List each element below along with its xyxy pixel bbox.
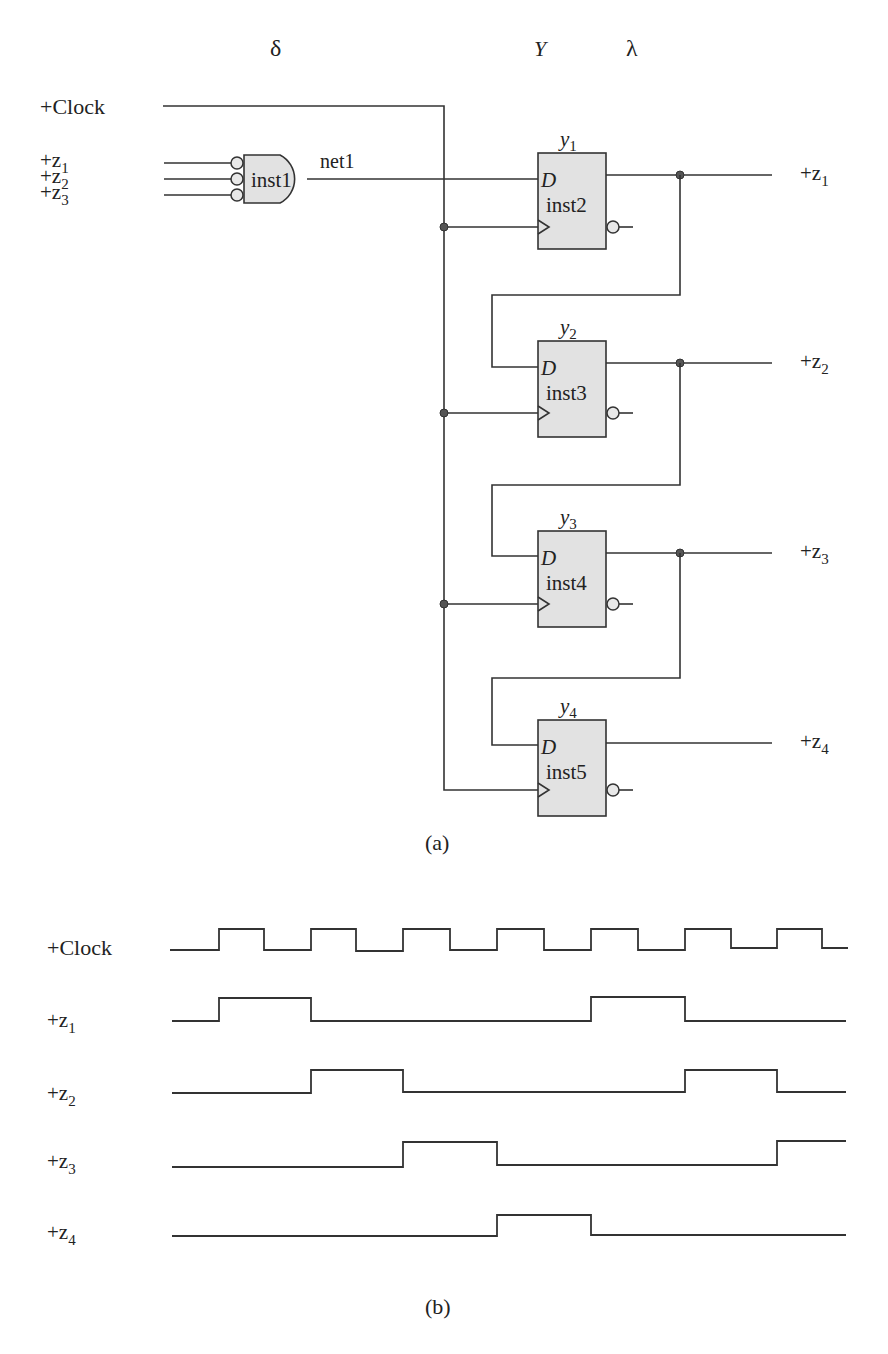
timing-label-z1: +z1 <box>47 1008 76 1036</box>
svg-text:inst5: inst5 <box>546 760 587 784</box>
lambda-header: λ <box>626 35 638 61</box>
z1-output-label: +z1 <box>800 161 829 189</box>
net1-label: net1 <box>320 150 354 172</box>
svg-text:y1: y1 <box>558 127 577 154</box>
svg-text:D: D <box>540 735 556 759</box>
junction-dot <box>440 409 448 417</box>
svg-text:inst2: inst2 <box>546 193 587 217</box>
Y-header: Y <box>534 36 549 61</box>
timing-label-z3: +z3 <box>47 1149 76 1177</box>
timing-label-z2: +z2 <box>47 1081 76 1109</box>
z-input-labels: +z1 +z2 +z3 <box>40 148 69 208</box>
svg-text:D: D <box>540 356 556 380</box>
clock-input-label: +Clock <box>40 94 105 119</box>
flip-flop-inst2: y1 D inst2 <box>538 127 633 249</box>
svg-text:D: D <box>540 168 556 192</box>
svg-text:y4: y4 <box>558 694 577 721</box>
svg-text:D: D <box>540 546 556 570</box>
gate-name: inst1 <box>251 168 292 192</box>
flip-flop-inst3: y2 D inst3 <box>538 315 633 437</box>
caption-b: (b) <box>425 1294 451 1319</box>
waveform-z3 <box>172 1141 846 1167</box>
waveform-z2 <box>172 1070 846 1093</box>
z4-output-label: +z4 <box>800 729 829 757</box>
z3-output-label: +z3 <box>800 539 829 567</box>
waveform-z4 <box>172 1215 846 1236</box>
junction-dot <box>440 600 448 608</box>
junction-dot <box>440 223 448 231</box>
clock-branches <box>444 227 538 604</box>
z-input-wires <box>164 163 232 195</box>
svg-text:inst3: inst3 <box>546 381 587 405</box>
timing-label-clock: +Clock <box>47 935 112 960</box>
flip-flop-inst5: y4 D inst5 <box>538 694 633 816</box>
caption-a: (a) <box>425 830 449 855</box>
delta-header: δ <box>270 35 281 61</box>
and-gate-inst1: inst1 <box>231 155 295 203</box>
z2-output-label: +z2 <box>800 349 829 377</box>
svg-text:inst4: inst4 <box>546 571 587 595</box>
svg-text:y2: y2 <box>558 315 577 342</box>
diagram-canvas: δ Y λ +Clock +z1 +z2 +z3 inst1 net1 y1 D… <box>0 0 888 1354</box>
waveform-z1 <box>172 997 846 1021</box>
svg-text:y3: y3 <box>558 505 577 532</box>
waveform-clock <box>170 929 848 951</box>
timing-label-z4: +z4 <box>47 1220 76 1248</box>
flip-flop-inst4: y3 D inst4 <box>538 505 633 627</box>
clock-wire <box>163 106 538 790</box>
